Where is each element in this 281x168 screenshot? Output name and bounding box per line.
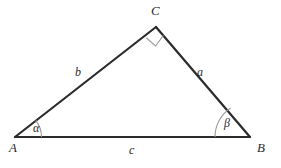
side-a-line: [156, 27, 250, 137]
geometry-figure: A B C a b c α β: [0, 0, 281, 168]
side-label-a: a: [197, 66, 203, 78]
angle-label-beta: β: [224, 117, 230, 129]
vertex-label-b: B: [257, 141, 265, 154]
vertex-label-c: C: [151, 4, 160, 17]
triangle-drawing: [0, 0, 281, 168]
side-label-b: b: [75, 66, 81, 78]
angle-label-alpha: α: [33, 122, 39, 134]
right-angle-marker-icon: [146, 35, 163, 46]
side-label-c: c: [129, 144, 134, 156]
vertex-label-a: A: [9, 141, 17, 154]
